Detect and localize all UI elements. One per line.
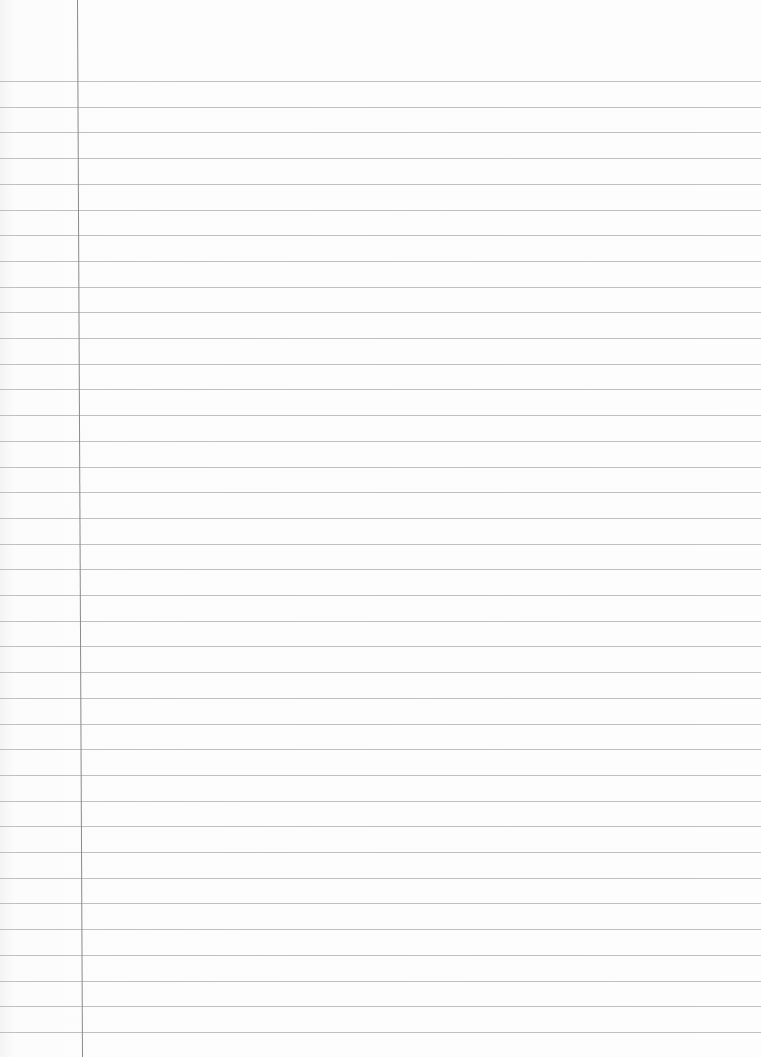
ruled-line <box>0 389 761 390</box>
ruled-line <box>0 415 761 416</box>
ruled-line <box>0 441 761 442</box>
ruled-line <box>0 235 761 236</box>
ruled-line <box>0 929 761 930</box>
ruled-line <box>0 1032 761 1033</box>
ruled-line <box>0 852 761 853</box>
ruled-line <box>0 518 761 519</box>
ruled-line <box>0 261 761 262</box>
ruled-line <box>0 724 761 725</box>
ruled-line <box>0 595 761 596</box>
ruled-line <box>0 672 761 673</box>
ruled-line <box>0 312 761 313</box>
ruled-line <box>0 210 761 211</box>
ruled-line <box>0 826 761 827</box>
ruled-line <box>0 338 761 339</box>
ruled-line <box>0 1006 761 1007</box>
ruled-line <box>0 878 761 879</box>
ruled-line <box>0 646 761 647</box>
ruled-line <box>0 492 761 493</box>
ruled-line <box>0 81 761 82</box>
ruled-line <box>0 621 761 622</box>
ruled-line <box>0 801 761 802</box>
ruled-line <box>0 698 761 699</box>
ruled-line <box>0 107 761 108</box>
ruled-line <box>0 955 761 956</box>
ruled-line <box>0 184 761 185</box>
ruled-line <box>0 569 761 570</box>
ruled-line <box>0 132 761 133</box>
ruled-line <box>0 903 761 904</box>
ruled-line <box>0 158 761 159</box>
ruled-line <box>0 467 761 468</box>
ruled-line <box>0 749 761 750</box>
ruled-line <box>0 287 761 288</box>
lined-paper-sheet <box>0 0 761 1057</box>
ruled-line <box>0 775 761 776</box>
ruled-line <box>0 544 761 545</box>
ruled-line <box>0 981 761 982</box>
ruled-line <box>0 364 761 365</box>
